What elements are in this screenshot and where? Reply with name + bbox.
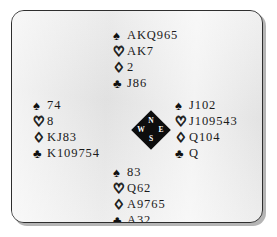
compass-label-north: N — [146, 117, 156, 125]
east-diamond-line: ♢ Q104 — [175, 129, 238, 145]
compass-label-west: W — [136, 126, 146, 134]
south-heart-cards: Q62 — [125, 182, 151, 195]
compass-label-south: S — [146, 135, 156, 143]
diamond-icon: ♢ — [175, 131, 187, 144]
west-spade-cards: 74 — [45, 99, 61, 112]
hand-north: ♠ AKQ965 ♡ AK7 ♢ 2 ♣ J86 — [113, 27, 178, 91]
heart-icon: ♡ — [113, 45, 125, 58]
diamond-icon: ♢ — [33, 131, 45, 144]
spade-icon: ♠ — [33, 99, 45, 112]
hand-south: ♠ 83 ♡ Q62 ♢ A9765 ♣ A32 — [113, 164, 166, 223]
south-diamond-line: ♢ A9765 — [113, 196, 166, 212]
north-diamond-line: ♢ 2 — [113, 59, 178, 75]
west-club-cards: K109754 — [45, 147, 100, 160]
spade-icon: ♠ — [113, 29, 125, 42]
heart-icon: ♡ — [113, 182, 125, 195]
compass-rose: N W E S — [131, 110, 171, 150]
bridge-deal-figure: ♠ AKQ965 ♡ AK7 ♢ 2 ♣ J86 ♠ 74 ♡ — [0, 0, 277, 237]
west-club-line: ♣ K109754 — [33, 145, 100, 161]
west-spade-line: ♠ 74 — [33, 97, 100, 113]
east-heart-line: ♡ J109543 — [175, 113, 238, 129]
east-diamond-cards: Q104 — [187, 131, 220, 144]
west-diamond-line: ♢ KJ83 — [33, 129, 100, 145]
hand-west: ♠ 74 ♡ 8 ♢ KJ83 ♣ K109754 — [33, 97, 100, 161]
club-icon: ♣ — [175, 147, 187, 160]
north-spade-cards: AKQ965 — [125, 29, 178, 42]
north-heart-cards: AK7 — [125, 45, 154, 58]
heart-icon: ♡ — [175, 115, 187, 128]
south-spade-line: ♠ 83 — [113, 164, 166, 180]
north-diamond-cards: 2 — [125, 61, 134, 74]
hand-east: ♠ J102 ♡ J109543 ♢ Q104 ♣ Q — [175, 97, 238, 161]
club-icon: ♣ — [33, 147, 45, 160]
club-icon: ♣ — [113, 77, 125, 90]
south-heart-line: ♡ Q62 — [113, 180, 166, 196]
heart-icon: ♡ — [33, 115, 45, 128]
south-diamond-cards: A9765 — [125, 198, 166, 211]
club-icon: ♣ — [113, 214, 125, 224]
east-club-line: ♣ Q — [175, 145, 238, 161]
east-spade-line: ♠ J102 — [175, 97, 238, 113]
north-heart-line: ♡ AK7 — [113, 43, 178, 59]
compass-label-east: E — [156, 126, 166, 134]
deal-frame: ♠ AKQ965 ♡ AK7 ♢ 2 ♣ J86 ♠ 74 ♡ — [11, 10, 263, 223]
spade-icon: ♠ — [175, 99, 187, 112]
north-club-line: ♣ J86 — [113, 75, 178, 91]
south-spade-cards: 83 — [125, 166, 141, 179]
east-spade-cards: J102 — [187, 99, 216, 112]
spade-icon: ♠ — [113, 166, 125, 179]
south-club-line: ♣ A32 — [113, 212, 166, 223]
diamond-icon: ♢ — [113, 61, 125, 74]
north-club-cards: J86 — [125, 77, 147, 90]
north-spade-line: ♠ AKQ965 — [113, 27, 178, 43]
west-heart-cards: 8 — [45, 115, 54, 128]
south-club-cards: A32 — [125, 214, 151, 223]
west-heart-line: ♡ 8 — [33, 113, 100, 129]
diamond-icon: ♢ — [113, 198, 125, 211]
east-club-cards: Q — [187, 147, 199, 160]
west-diamond-cards: KJ83 — [45, 131, 77, 144]
east-heart-cards: J109543 — [187, 115, 238, 128]
